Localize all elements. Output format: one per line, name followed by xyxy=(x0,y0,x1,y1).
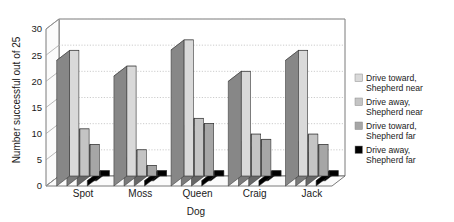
legend-swatch xyxy=(355,98,363,106)
bar-queen-series-1 xyxy=(171,40,193,186)
legend-swatch xyxy=(355,122,363,130)
x-axis-label-jack: Jack xyxy=(302,188,324,199)
chart-legend: Drive toward,Shepherd nearDrive away,She… xyxy=(355,73,423,165)
y-axis-tick-labels: 051015202530 xyxy=(31,23,42,191)
bar-moss-series-1 xyxy=(114,66,136,186)
legend-swatch xyxy=(355,146,363,154)
y-axis-title: Number successful out of 25 xyxy=(11,36,22,163)
x-axis-label-queen: Queen xyxy=(182,188,212,199)
y-axis-tick-label: 20 xyxy=(31,76,42,87)
legend-label-line1: Drive away, xyxy=(366,97,410,107)
y-axis-tick-label: 15 xyxy=(31,102,42,113)
legend-label-line2: Shepherd far xyxy=(366,155,416,165)
legend-item-2[interactable]: Drive away,Shepherd near xyxy=(355,97,423,117)
y-axis-tick-label: 30 xyxy=(31,23,42,34)
legend-label-line1: Drive toward, xyxy=(366,73,417,83)
chart-container: 051015202530 SpotMossQueenCraigJack Dog … xyxy=(0,0,454,222)
y-axis-tick-label: 5 xyxy=(37,154,42,165)
legend-label-line2: Shepherd near xyxy=(366,83,423,93)
x-axis-label-craig: Craig xyxy=(243,188,267,199)
legend-swatch xyxy=(355,74,363,82)
x-axis-title: Dog xyxy=(187,206,205,217)
legend-item-3[interactable]: Drive toward,Shepherd far xyxy=(355,121,417,141)
y-axis-tick-label: 25 xyxy=(31,50,42,61)
x-axis-label-moss: Moss xyxy=(128,188,152,199)
x-axis-label-spot: Spot xyxy=(73,188,94,199)
bar-spot-series-1 xyxy=(57,50,79,186)
x-axis-category-labels: SpotMossQueenCraigJack xyxy=(73,188,323,199)
legend-label-line2: Shepherd near xyxy=(366,107,423,117)
bar-chart-svg: 051015202530 SpotMossQueenCraigJack Dog … xyxy=(0,0,454,222)
bar-craig-series-1 xyxy=(228,71,250,186)
y-axis-tick-label: 0 xyxy=(37,180,42,191)
legend-item-1[interactable]: Drive toward,Shepherd near xyxy=(355,73,423,93)
y-axis-tick-label: 10 xyxy=(31,128,42,139)
legend-label-line1: Drive toward, xyxy=(366,121,417,131)
legend-label-line2: Shepherd far xyxy=(366,131,416,141)
legend-item-4[interactable]: Drive away,Shepherd far xyxy=(355,145,416,165)
legend-label-line1: Drive away, xyxy=(366,145,410,155)
bar-jack-series-1 xyxy=(286,50,308,186)
